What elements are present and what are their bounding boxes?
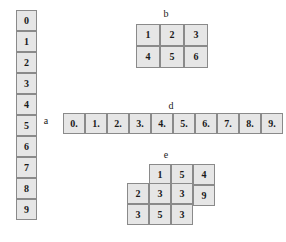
- cell-e-back-r0-c0: 1: [149, 164, 171, 185]
- label-b: b: [160, 9, 172, 19]
- cell-b-r0-c2: 3: [184, 24, 208, 46]
- cell-b-r0-c0: 1: [136, 24, 160, 46]
- cell-d-0: 0.: [63, 113, 85, 134]
- cell-b-r0-c1: 2: [160, 24, 184, 46]
- cell-a-3: 3: [16, 73, 37, 94]
- cell-e-back-r0-c2: 4: [193, 164, 215, 185]
- cell-b-r1-c1: 5: [160, 46, 184, 68]
- cell-b-r1-c2: 6: [184, 46, 208, 68]
- cell-a-6: 6: [16, 136, 37, 157]
- cell-e-front-r1-c1: 5: [149, 204, 171, 225]
- cell-a-9: 9: [16, 199, 37, 220]
- cell-a-1: 1: [16, 31, 37, 52]
- label-d: d: [165, 101, 177, 111]
- cell-d-3: 3.: [129, 113, 151, 134]
- cell-d-9: 9.: [261, 113, 283, 134]
- cell-e-front-r0-c2: 3: [171, 183, 193, 204]
- cell-e-back-r0-c1: 5: [171, 164, 193, 185]
- cell-a-2: 2: [16, 52, 37, 73]
- cell-e-front-r1-c0: 3: [127, 204, 149, 225]
- cell-a-8: 8: [16, 178, 37, 199]
- cell-e-back-r1-c2: 9: [193, 185, 215, 206]
- label-e: e: [160, 150, 172, 160]
- cell-a-7: 7: [16, 157, 37, 178]
- cell-d-6: 6.: [195, 113, 217, 134]
- cell-d-8: 8.: [239, 113, 261, 134]
- label-a: a: [40, 116, 52, 126]
- cell-d-4: 4.: [151, 113, 173, 134]
- cell-b-r1-c0: 4: [136, 46, 160, 68]
- cell-d-7: 7.: [217, 113, 239, 134]
- cell-d-5: 5.: [173, 113, 195, 134]
- cell-d-2: 2.: [107, 113, 129, 134]
- cell-a-5: 5: [16, 115, 37, 136]
- cell-e-front-r1-c2: 3: [171, 204, 193, 225]
- cell-e-front-r0-c0: 2: [127, 183, 149, 204]
- diagram-canvas: 0 1 2 3 4 5 6 7 8 9 a b 1 2 3 4 5 6 d 0.…: [0, 0, 286, 242]
- cell-e-front-r0-c1: 3: [149, 183, 171, 204]
- cell-d-1: 1.: [85, 113, 107, 134]
- cell-a-4: 4: [16, 94, 37, 115]
- cell-a-0: 0: [16, 10, 37, 31]
